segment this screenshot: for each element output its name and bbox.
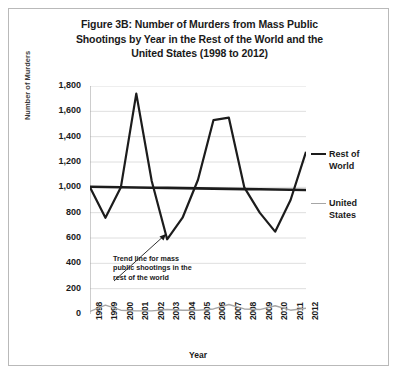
chart-legend: Rest of World United States xyxy=(311,149,385,247)
x-axis-tick-label: 2012 xyxy=(310,302,320,320)
chart-title: Figure 3B: Number of Murders from Mass P… xyxy=(23,17,376,61)
legend-swatch-rest-of-world xyxy=(311,153,326,155)
chart-title-line-3: United States (1998 to 2012) xyxy=(23,46,376,61)
series-line-united-states xyxy=(90,305,306,312)
y-axis-tick-label: 1,200 xyxy=(39,156,81,166)
chart-title-line-1: Figure 3B: Number of Murders from Mass P… xyxy=(23,17,376,32)
legend-label-rest-of-world-line-2: World xyxy=(329,161,385,173)
y-axis-tick-label: 600 xyxy=(39,232,81,242)
y-axis-tick-label: 200 xyxy=(39,283,81,293)
annotation-line-3: rest of the world xyxy=(113,273,209,282)
y-axis-tick-label: 400 xyxy=(39,257,81,267)
legend-label-united-states-line-1: United xyxy=(329,198,385,210)
y-axis-tick-label: 1,600 xyxy=(39,105,81,115)
series-line-rest-of-world xyxy=(90,94,306,240)
y-axis-tick-label: 1,000 xyxy=(39,181,81,191)
legend-label-rest-of-world-line-1: Rest of xyxy=(329,149,385,161)
figure-frame: Figure 3B: Number of Murders from Mass P… xyxy=(8,8,389,366)
legend-item-rest-of-world: Rest of World xyxy=(311,149,385,172)
trend-line-annotation: Trend line for mass public shootings in … xyxy=(113,254,209,282)
x-axis-title: Year xyxy=(90,350,306,360)
y-axis-tick-label: 1,800 xyxy=(39,80,81,90)
y-axis-tick-label: 1,400 xyxy=(39,131,81,141)
y-axis-title: Number of Murders xyxy=(23,26,32,146)
y-axis-tick-label: 0 xyxy=(39,308,81,318)
legend-label-rest-of-world: Rest of World xyxy=(329,149,385,172)
legend-label-united-states-line-2: States xyxy=(329,210,385,222)
annotation-line-2: public shootings in the xyxy=(113,263,209,272)
legend-item-united-states: United States xyxy=(311,198,385,221)
legend-label-united-states: United States xyxy=(329,198,385,221)
y-axis-tick-label: 800 xyxy=(39,207,81,217)
legend-swatch-united-states xyxy=(311,203,326,204)
annotation-line-1: Trend line for mass xyxy=(113,254,209,263)
chart-title-line-2: Shootings by Year in the Rest of the Wor… xyxy=(23,32,376,47)
